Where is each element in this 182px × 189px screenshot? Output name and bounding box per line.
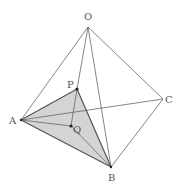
label-b: B — [108, 172, 115, 183]
label-o: O — [84, 11, 92, 22]
point-p — [75, 87, 78, 90]
point-b — [110, 166, 112, 168]
label-c: C — [165, 94, 173, 105]
edge-op — [77, 27, 88, 89]
edge-oc — [88, 27, 163, 99]
edge-bc — [111, 99, 163, 167]
tetrahedron-diagram: O A B C P Q — [0, 0, 182, 189]
point-a — [20, 119, 22, 121]
label-a: A — [8, 115, 17, 126]
label-p: P — [67, 79, 74, 90]
label-q: Q — [73, 124, 81, 135]
